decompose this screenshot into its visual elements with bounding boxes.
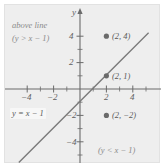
x-tick-label--4: −4 <box>21 93 32 102</box>
graph-figure: y −4 −2 2 4 4 2 −2 −4 above line (y > x … <box>0 0 164 167</box>
x-tick-label--2: −2 <box>47 93 58 102</box>
line-equation-label: y = x − 1 <box>10 108 46 119</box>
x-tick-label-2: 2 <box>104 93 109 102</box>
y-tick-label-2: 2 <box>69 58 74 67</box>
point-label-2-minus-2: (2, −2) <box>112 111 136 120</box>
below-line-inequality: (y < x − 1) <box>98 146 135 155</box>
data-point-2-1 <box>104 73 109 78</box>
point-label-2-4: (2, 4) <box>112 32 130 41</box>
y-axis-arrowhead <box>77 8 82 14</box>
y-tick-label-4: 4 <box>69 32 74 41</box>
data-point-2-minus-2 <box>104 113 109 118</box>
above-line-label: above line <box>12 21 47 30</box>
point-label-2-1: (2, 1) <box>112 72 130 81</box>
x-tick-label-4: 4 <box>130 93 135 102</box>
y-tick-label--2: −2 <box>66 111 77 120</box>
data-point-2-4 <box>104 34 109 39</box>
above-line-inequality: (y > x − 1) <box>12 34 49 43</box>
y-axis-label: y <box>72 8 76 17</box>
y-tick-label--4: −4 <box>66 138 77 147</box>
